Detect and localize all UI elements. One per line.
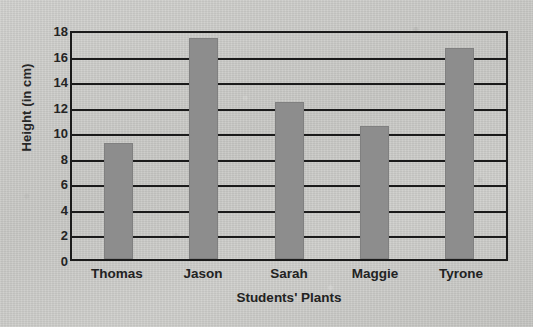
y-axis-tick-label: 14 (54, 76, 68, 89)
x-axis-tick-label: Sarah (246, 266, 332, 281)
bar-slot (417, 33, 502, 259)
x-axis-tick-label: Jason (160, 266, 246, 281)
y-axis-tick-label: 10 (54, 127, 68, 140)
bar (360, 126, 389, 259)
bar-slot (332, 33, 417, 259)
y-axis-tick-labels: 024681012141618 (40, 31, 68, 261)
bar-series (72, 33, 506, 259)
bar-slot (161, 33, 246, 259)
x-axis-title: Students' Plants (70, 290, 508, 305)
y-axis-tick-label: 18 (54, 25, 68, 38)
plot-area (70, 31, 508, 261)
bar (445, 48, 474, 259)
y-axis-tick-label: 12 (54, 101, 68, 114)
y-axis-tick-label: 0 (61, 255, 68, 268)
bar (189, 38, 218, 259)
x-axis-tick-label: Thomas (74, 266, 160, 281)
bar (104, 143, 133, 259)
y-axis-tick-label: 16 (54, 50, 68, 63)
y-axis-tick-label: 4 (61, 203, 68, 216)
y-axis-tick-label: 2 (61, 229, 68, 242)
chart-page: Height (in cm) 024681012141618 ThomasJas… (0, 0, 533, 327)
y-axis-tick-label: 8 (61, 152, 68, 165)
x-axis-tick-label: Tyrone (418, 266, 504, 281)
bar (275, 102, 304, 259)
bar-slot (246, 33, 331, 259)
x-axis-tick-label: Maggie (332, 266, 418, 281)
bar-slot (76, 33, 161, 259)
x-axis-tick-labels: ThomasJasonSarahMaggieTyrone (70, 266, 508, 281)
y-axis-tick-label: 6 (61, 178, 68, 191)
y-axis-title: Height (in cm) (19, 38, 34, 178)
